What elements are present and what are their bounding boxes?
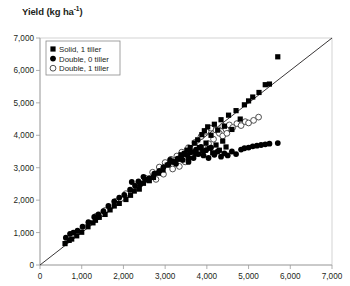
legend-marker-filled-circle-icon	[50, 56, 56, 62]
data-point	[275, 140, 281, 146]
data-point	[203, 140, 208, 145]
data-point	[156, 171, 161, 176]
data-point	[226, 113, 231, 118]
data-point	[238, 116, 243, 121]
data-point	[80, 224, 86, 230]
data-point	[217, 148, 222, 153]
data-point	[180, 157, 186, 163]
data-point	[79, 230, 84, 235]
data-point	[112, 203, 117, 208]
data-point	[210, 150, 215, 155]
data-point	[218, 117, 223, 122]
data-point	[151, 175, 156, 180]
y-tick-label: 4,000	[14, 131, 35, 140]
data-point	[267, 81, 272, 86]
x-tick-label: 7,000	[322, 272, 343, 281]
data-point	[69, 236, 74, 241]
y-tick-label: 3,000	[14, 164, 35, 173]
data-point	[137, 187, 142, 192]
data-point	[200, 148, 205, 153]
data-point	[212, 122, 217, 127]
y-tick-label: 7,000	[14, 34, 35, 43]
data-point	[97, 215, 102, 220]
y-tick-label: 1,000	[14, 229, 35, 238]
legend-item-label: Double, 0 tiller	[59, 55, 109, 64]
legend-item-0[interactable]: Solid, 1 tiller	[50, 45, 101, 54]
data-point	[233, 108, 238, 113]
data-point	[213, 142, 218, 147]
x-tick-label: 0	[38, 272, 43, 281]
legend-item-label: Solid, 1 tiller	[59, 45, 102, 54]
data-point	[170, 166, 176, 172]
data-point	[223, 144, 228, 149]
x-tick-label: 5,000	[238, 272, 259, 281]
data-point	[141, 174, 147, 180]
data-point	[256, 114, 262, 120]
data-point	[275, 54, 280, 59]
data-point	[116, 195, 122, 201]
data-point	[188, 145, 193, 150]
data-point	[175, 157, 180, 162]
data-point	[160, 167, 165, 172]
y-tick-label: 5,000	[14, 99, 35, 108]
legend-item-2[interactable]: Double, 1 tiller	[50, 64, 109, 73]
data-point	[250, 94, 255, 99]
data-point	[186, 156, 191, 161]
data-point	[193, 151, 198, 156]
x-tick-label: 1,000	[71, 272, 92, 281]
y-tick-label: 0	[29, 261, 34, 270]
data-point	[141, 181, 146, 186]
data-point	[195, 137, 200, 142]
x-tick-label: 2,000	[113, 272, 134, 281]
legend-item-label: Double, 1 tiller	[59, 64, 109, 73]
data-point	[129, 179, 135, 185]
data-point	[136, 178, 142, 184]
x-tick-label: 3,000	[155, 272, 176, 281]
data-point	[233, 151, 239, 157]
data-point	[85, 224, 90, 229]
data-point	[102, 212, 107, 217]
data-point	[74, 233, 79, 238]
scatter-chart: Yield (kg ha-1) 01,0002,0003,0004,0005,0…	[0, 0, 350, 286]
y-tick-label: 2,000	[14, 196, 35, 205]
legend-marker-open-circle-icon	[50, 65, 56, 71]
data-point	[229, 127, 234, 132]
data-point	[267, 141, 273, 147]
chart-legend[interactable]: Solid, 1 tillerDouble, 0 tillerDouble, 1…	[46, 41, 120, 75]
data-points-group	[62, 54, 280, 246]
data-point	[165, 163, 170, 168]
y-tick-label: 6,000	[14, 66, 35, 75]
data-point	[207, 146, 212, 151]
data-point	[256, 90, 261, 95]
data-point	[215, 127, 220, 132]
data-point	[205, 124, 210, 129]
series-double-0-tiller	[63, 140, 281, 240]
data-point	[222, 124, 227, 129]
data-point	[208, 133, 213, 138]
data-point	[132, 188, 137, 193]
x-tick-label: 4,000	[197, 272, 218, 281]
data-point	[170, 159, 175, 164]
data-point	[117, 201, 122, 206]
data-point	[123, 197, 128, 202]
data-point	[224, 130, 230, 136]
legend-marker-filled-square-icon	[50, 46, 55, 51]
legend-item-1[interactable]: Double, 0 tiller	[50, 55, 109, 64]
data-point	[220, 139, 225, 144]
plot-surface: 01,0002,0003,0004,0005,0006,0007,00001,0…	[0, 0, 350, 286]
x-tick-label: 6,000	[280, 272, 301, 281]
data-point	[206, 155, 212, 161]
